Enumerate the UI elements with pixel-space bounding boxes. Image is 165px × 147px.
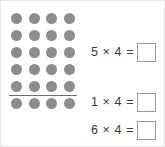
- multiplication-worksheet: 5 × 4 = 1 × 4 = 6 × 4 =: [0, 0, 165, 147]
- group-divider-line: [9, 95, 77, 96]
- dot-row: [11, 61, 75, 78]
- equation-expression: 1 × 4 =: [91, 96, 134, 109]
- dot-row: [11, 10, 75, 27]
- array-dot: [46, 13, 57, 24]
- array-dot: [11, 13, 22, 24]
- array-dot: [29, 64, 40, 75]
- array-dot: [11, 98, 22, 109]
- array-dot: [11, 47, 22, 58]
- array-dot: [46, 64, 57, 75]
- equation-list: 5 × 4 = 1 × 4 = 6 × 4 =: [89, 1, 165, 147]
- array-dot: [29, 81, 40, 92]
- equation-expression: 5 × 4 =: [91, 46, 134, 59]
- array-dot: [64, 98, 75, 109]
- array-dot: [64, 30, 75, 41]
- equation-expression: 6 × 4 =: [91, 124, 134, 137]
- array-dot: [46, 47, 57, 58]
- answer-input-box[interactable]: [137, 121, 156, 140]
- dot-array: [11, 10, 75, 114]
- array-dot: [46, 98, 57, 109]
- dot-row: [11, 27, 75, 44]
- array-dot: [64, 64, 75, 75]
- equation-row: 6 × 4 =: [91, 121, 156, 140]
- array-dot: [64, 47, 75, 58]
- array-dot: [11, 30, 22, 41]
- array-dot: [64, 13, 75, 24]
- array-dot: [11, 64, 22, 75]
- answer-input-box[interactable]: [137, 93, 156, 112]
- array-dot: [29, 13, 40, 24]
- array-dot: [11, 81, 22, 92]
- equation-row: 1 × 4 =: [91, 93, 156, 112]
- array-dot: [46, 30, 57, 41]
- dot-row: [11, 44, 75, 61]
- array-dot: [29, 98, 40, 109]
- array-dot: [29, 30, 40, 41]
- dot-row: [11, 78, 75, 95]
- dot-row: [11, 95, 75, 112]
- equation-row: 5 × 4 =: [91, 43, 156, 62]
- array-dot: [64, 81, 75, 92]
- array-dot: [29, 47, 40, 58]
- answer-input-box[interactable]: [137, 43, 156, 62]
- array-dot: [46, 81, 57, 92]
